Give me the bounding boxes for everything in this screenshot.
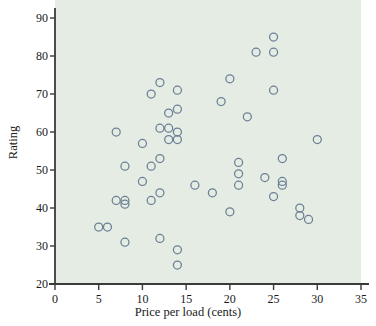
data-point: [252, 48, 260, 56]
data-point: [156, 189, 164, 197]
data-point: [112, 196, 120, 204]
data-point: [147, 196, 155, 204]
scatter-chart-figure: 2030405060708090 05101520253035 Price pe…: [0, 0, 376, 326]
x-axis-title: Price per load (cents): [0, 305, 376, 320]
data-point: [173, 261, 181, 269]
data-point: [147, 162, 155, 170]
data-point: [270, 33, 278, 41]
y-tick-label: 80: [22, 50, 48, 62]
data-point: [296, 212, 304, 220]
x-tick-label: 10: [130, 293, 154, 305]
data-point: [208, 189, 216, 197]
data-point: [165, 124, 173, 132]
data-point: [261, 174, 269, 182]
x-tick-label: 0: [43, 293, 67, 305]
x-tick-label: 30: [305, 293, 329, 305]
data-point: [173, 128, 181, 136]
x-tick-label: 20: [218, 293, 242, 305]
data-point: [165, 109, 173, 117]
data-point: [235, 181, 243, 189]
x-tick-label: 35: [349, 293, 373, 305]
data-point: [235, 170, 243, 178]
data-point: [173, 246, 181, 254]
x-tick-label: 15: [174, 293, 198, 305]
data-point: [95, 223, 103, 231]
data-point: [226, 75, 234, 83]
data-points: [95, 33, 322, 269]
axes: [49, 8, 369, 284]
data-point: [156, 79, 164, 87]
x-tick-label: 25: [262, 293, 286, 305]
data-point: [121, 238, 129, 246]
y-tick-label: 50: [22, 164, 48, 176]
data-point: [165, 136, 173, 144]
data-point: [112, 128, 120, 136]
data-point: [156, 124, 164, 132]
y-tick-label: 30: [22, 240, 48, 252]
plot-canvas: [0, 0, 376, 326]
data-point: [217, 98, 225, 106]
data-point: [156, 155, 164, 163]
data-point: [270, 48, 278, 56]
data-point: [121, 162, 129, 170]
x-tick-label: 5: [87, 293, 111, 305]
data-point: [296, 204, 304, 212]
data-point: [147, 90, 155, 98]
data-point: [173, 136, 181, 144]
tick-marks: [50, 18, 361, 290]
data-point: [235, 158, 243, 166]
y-tick-label: 60: [22, 126, 48, 138]
y-tick-label: 20: [22, 278, 48, 290]
data-point: [313, 136, 321, 144]
y-tick-label: 90: [22, 12, 48, 24]
data-point: [226, 208, 234, 216]
data-point: [243, 113, 251, 121]
data-point: [138, 139, 146, 147]
data-point: [278, 155, 286, 163]
y-tick-label: 40: [22, 202, 48, 214]
data-point: [173, 86, 181, 94]
data-point: [156, 234, 164, 242]
data-point: [191, 181, 199, 189]
data-point: [173, 105, 181, 113]
data-point: [305, 215, 313, 223]
data-point: [103, 223, 111, 231]
data-point: [270, 193, 278, 201]
y-axis-title: Rating: [6, 108, 21, 178]
y-tick-label: 70: [22, 88, 48, 100]
data-point: [270, 86, 278, 94]
data-point: [138, 177, 146, 185]
